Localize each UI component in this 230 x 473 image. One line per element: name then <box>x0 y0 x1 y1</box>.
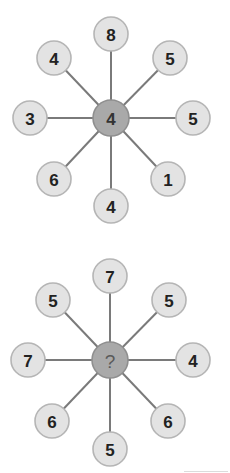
outer-node-bottom: 5 <box>93 432 127 466</box>
center-node: 4 <box>93 100 129 136</box>
node-label: 8 <box>106 26 115 45</box>
divider <box>184 471 228 472</box>
outer-node-bottom-left: 6 <box>35 404 69 438</box>
center-node: ? <box>92 342 128 378</box>
node-label: 6 <box>47 413 56 432</box>
outer-node-top-right: 5 <box>152 283 186 317</box>
node-label: 4 <box>106 198 116 217</box>
node-label: 7 <box>23 352 32 371</box>
outer-node-right: 5 <box>176 101 210 135</box>
star-diagram-question: 75465675? <box>11 259 210 466</box>
node-label: 5 <box>105 441 114 460</box>
node-label: 6 <box>49 171 58 190</box>
node-label: 5 <box>165 50 174 69</box>
unknown-value-label: ? <box>105 351 116 372</box>
outer-node-bottom: 4 <box>94 189 128 223</box>
node-label: 4 <box>188 352 198 371</box>
node-label: 1 <box>163 171 172 190</box>
outer-node-top: 7 <box>93 259 127 293</box>
center-label: 4 <box>106 110 116 129</box>
outer-node-bottom-right: 1 <box>151 162 185 196</box>
node-label: 6 <box>163 413 172 432</box>
node-label: 5 <box>188 110 197 129</box>
outer-node-top-left: 4 <box>37 41 71 75</box>
outer-node-left: 7 <box>11 343 45 377</box>
star-diagram-example: 855146344 <box>13 17 210 223</box>
star-puzzle: 855146344 75465675? <box>0 0 230 473</box>
outer-node-bottom-left: 6 <box>37 162 71 196</box>
outer-node-top-right: 5 <box>153 41 187 75</box>
outer-node-top: 8 <box>94 17 128 51</box>
node-label: 5 <box>164 292 173 311</box>
outer-node-right: 4 <box>176 343 210 377</box>
outer-node-bottom-right: 6 <box>151 404 185 438</box>
outer-node-left: 3 <box>13 101 47 135</box>
node-label: 7 <box>105 268 114 287</box>
node-label: 4 <box>49 50 59 69</box>
outer-node-top-left: 5 <box>36 283 70 317</box>
node-label: 5 <box>48 292 57 311</box>
node-label: 3 <box>25 110 34 129</box>
